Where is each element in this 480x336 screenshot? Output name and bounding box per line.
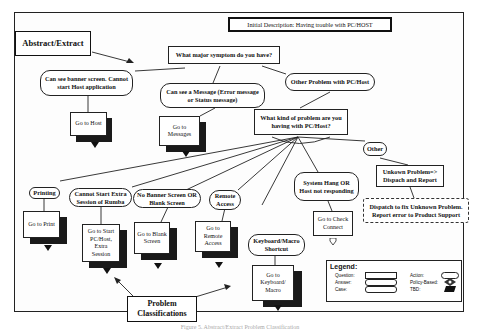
- action-unknown-problem[interactable]: Unkown Problem=> Dispach and Report: [376, 165, 444, 187]
- abstract-extract-label: Abstract/Extract: [15, 31, 91, 56]
- answer-other-problem[interactable]: Other Problem with PC/Host: [285, 73, 375, 91]
- legend-tbd-icon: [444, 286, 456, 292]
- tbd-arrow-icon: [182, 151, 190, 157]
- action-go-check-connect[interactable]: Go to Check Connect: [313, 211, 353, 236]
- answer-extra-session[interactable]: Cannot Start Extra Session of Rumba: [69, 188, 132, 207]
- question-major-symptom[interactable]: What major symptom do you have?: [168, 46, 280, 64]
- answer-system-hang[interactable]: System Hang OR Host not responding: [294, 172, 359, 201]
- action-go-host[interactable]: Go to Host: [70, 112, 107, 136]
- legend-case-shape: [365, 286, 397, 293]
- problem-classifications-label: Problem Classifications: [127, 296, 197, 322]
- tbd-arrow-icon: [103, 268, 111, 274]
- legend-answer-label: Answer:: [335, 280, 352, 285]
- action-go-keyboard-macro[interactable]: Go to Keyboard/ Macro: [252, 265, 294, 301]
- answer-banner-screen[interactable]: Can see banner screen. Cannot start Host…: [40, 70, 133, 96]
- legend-policy-label: Policy-Based:: [410, 280, 438, 285]
- legend-question-shape: [365, 272, 397, 279]
- action-go-blank-screen[interactable]: Go to Blank Screen: [134, 222, 170, 254]
- legend-question-label: Question:: [335, 273, 355, 278]
- tbd-arrow-icon: [44, 245, 52, 251]
- action-dispatch-unknown[interactable]: Dispatch to fix Unknown Problem. Report …: [363, 198, 469, 223]
- tbd-arrow-icon: [274, 305, 282, 311]
- legend-title: Legend:: [330, 263, 357, 270]
- legend-policy-icon: [444, 278, 456, 286]
- action-go-print[interactable]: Go to Print: [23, 211, 60, 238]
- legend-case-label: Case:: [335, 287, 347, 292]
- policy-arrow-icon: [329, 238, 337, 246]
- answer-keyboard-macro[interactable]: Keyboard/Macro Shortcut: [248, 234, 305, 256]
- action-go-remote-access[interactable]: Go to Remote Access: [195, 221, 231, 252]
- title-box: Initial Description: Having trouble with…: [228, 17, 392, 32]
- tbd-arrow-icon: [154, 263, 162, 269]
- legend-action-label: Action:: [410, 273, 424, 278]
- tbd-arrow-icon: [215, 262, 223, 268]
- answer-remote-access[interactable]: Remote Access: [209, 190, 241, 210]
- action-go-messages[interactable]: Go to Messages: [159, 116, 200, 146]
- action-go-extra-session[interactable]: Go to Start PC/Host, Extra Session: [82, 224, 120, 262]
- legend-tbd-label: TBD:: [410, 287, 420, 292]
- answer-printing[interactable]: Printing: [29, 187, 60, 199]
- figure-caption: Figure 5. Abstract/Extract Problem Class…: [0, 324, 480, 330]
- answer-see-message[interactable]: Can see a Message (Error message or Stat…: [160, 83, 265, 108]
- answer-no-banner[interactable]: No Banner Screen OR Blank Screen: [133, 189, 201, 208]
- legend-answer-shape: [365, 279, 397, 286]
- tbd-arrow-icon: [91, 142, 99, 148]
- question-kind-of-problem[interactable]: What kind of problem are you having with…: [254, 109, 348, 135]
- answer-other[interactable]: Other: [363, 142, 387, 156]
- legend: Legend: Question: Answer: Case: Action: …: [326, 260, 462, 302]
